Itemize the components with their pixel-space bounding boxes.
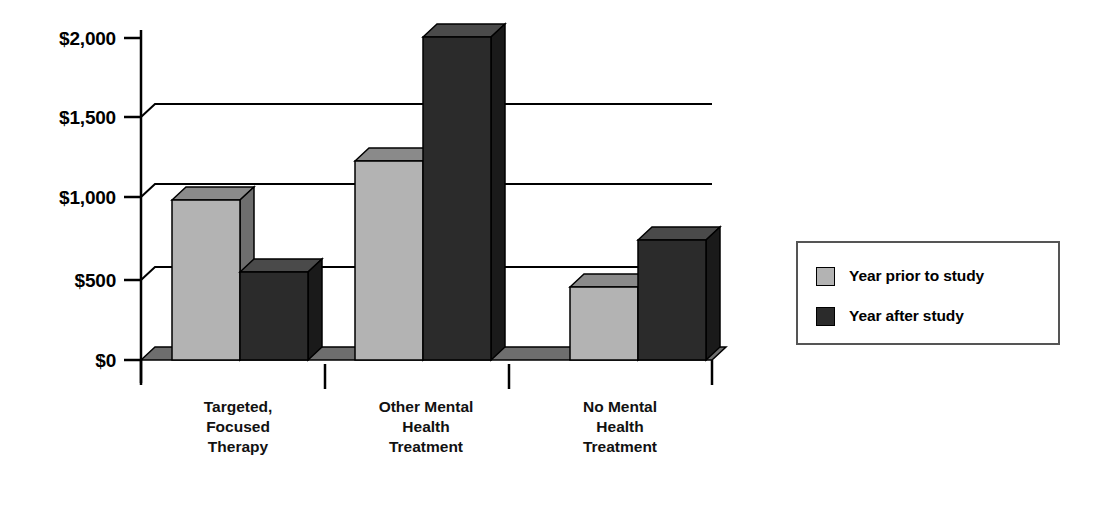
y-axis-ticks xyxy=(124,38,141,360)
x-axis-ticks xyxy=(141,360,712,389)
bar-side-face xyxy=(491,24,505,360)
bar-front-face xyxy=(172,200,240,360)
bar-chart-figure: $2,000 $1,500 $1,000 $500 $0 Targeted, F… xyxy=(0,0,1096,506)
y-axis-label-0: $0 xyxy=(6,351,116,370)
bar-none-after xyxy=(638,227,720,360)
legend-entry-year-after-study: Year after study xyxy=(816,305,964,327)
legend-swatch-dark-gray-icon xyxy=(816,307,835,326)
y-axis-label-1000: $1,000 xyxy=(6,188,116,207)
bar-front-face xyxy=(638,240,706,360)
bar-front-face xyxy=(240,272,308,360)
category-label-targeted-focused-therapy: Targeted, Focused Therapy xyxy=(158,397,318,456)
y-axis-label-500: $500 xyxy=(6,271,116,290)
legend-swatch-light-gray-icon xyxy=(816,267,835,286)
bar-front-face xyxy=(570,287,638,360)
bar-side-face xyxy=(706,227,720,360)
y-axis-label-1500: $1,500 xyxy=(6,108,116,127)
category-label-other-mental-health-treatment: Other Mental Health Treatment xyxy=(341,397,511,456)
bar-front-face xyxy=(355,161,423,360)
category-label-no-mental-health-treatment: No Mental Health Treatment xyxy=(535,397,705,456)
bar-targeted-after xyxy=(240,259,322,360)
bar-other-after xyxy=(423,24,505,360)
y-axis-label-2000: $2,000 xyxy=(6,29,116,48)
bar-front-face xyxy=(423,37,491,360)
legend-entry-year-prior-to-study: Year prior to study xyxy=(816,265,984,287)
chart-legend: Year prior to study Year after study xyxy=(796,241,1060,345)
legend-label-year-after-study: Year after study xyxy=(849,307,964,325)
bar-side-face xyxy=(308,259,322,360)
legend-label-year-prior-to-study: Year prior to study xyxy=(849,267,984,285)
